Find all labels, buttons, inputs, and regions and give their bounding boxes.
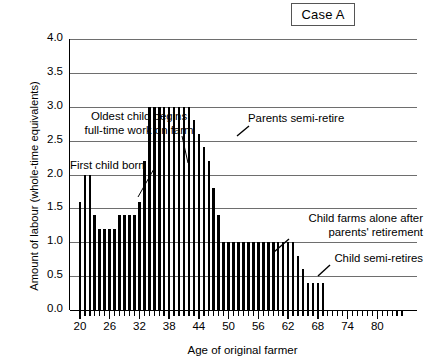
x-tick-label: 62 xyxy=(282,320,295,332)
x-tick xyxy=(248,310,249,316)
bar xyxy=(158,107,161,310)
x-tick-label: 74 xyxy=(341,320,354,332)
bar xyxy=(247,242,250,310)
x-tick xyxy=(297,310,298,316)
x-tick xyxy=(337,310,338,316)
x-tick xyxy=(327,310,328,316)
x-tick xyxy=(312,310,313,316)
x-tick xyxy=(228,310,229,319)
x-tick xyxy=(401,310,402,316)
x-tick xyxy=(258,310,259,319)
x-tick-label: 80 xyxy=(371,320,384,332)
y-axis-title: Amount of labour (whole-time equivalents… xyxy=(28,36,40,336)
x-tick xyxy=(149,310,150,316)
x-axis-tick-labels: 2026323844505662687480 xyxy=(70,320,417,336)
bar xyxy=(208,161,211,310)
x-tick xyxy=(307,310,308,316)
x-tick xyxy=(159,310,160,316)
bar xyxy=(272,242,275,310)
bar xyxy=(163,107,166,310)
x-tick xyxy=(213,310,214,316)
x-tick xyxy=(243,310,244,316)
bar xyxy=(79,202,82,310)
bar xyxy=(262,242,265,310)
x-tick-label: 68 xyxy=(311,320,324,332)
x-tick xyxy=(154,310,155,316)
y-tick-label: 1.0 xyxy=(29,234,63,246)
x-tick xyxy=(104,310,105,316)
x-tick xyxy=(188,310,189,316)
y-tick-label: 0.0 xyxy=(29,302,63,314)
y-tick-label: 1.5 xyxy=(29,200,63,212)
plot-area: 0.00.51.01.52.02.53.03.54.0 202632384450… xyxy=(69,39,416,310)
x-tick xyxy=(253,310,254,316)
x-tick xyxy=(193,310,194,316)
x-tick xyxy=(302,310,303,316)
x-tick xyxy=(367,310,368,316)
case-badge-label: Case A xyxy=(301,7,344,22)
x-tick xyxy=(233,310,234,316)
bar xyxy=(128,215,131,310)
x-tick xyxy=(168,310,169,319)
bar xyxy=(148,107,151,310)
x-tick xyxy=(144,310,145,316)
bar xyxy=(183,107,186,310)
x-tick-label: 50 xyxy=(222,320,235,332)
bar xyxy=(98,229,101,310)
bar xyxy=(178,107,181,310)
x-tick xyxy=(322,310,323,316)
bar xyxy=(153,107,156,310)
x-tick xyxy=(263,310,264,316)
y-tick-label: 0.5 xyxy=(29,268,63,280)
x-tick xyxy=(387,310,388,316)
annotation-oldest-child-line2: full-time work on farm xyxy=(64,124,214,138)
bar xyxy=(143,161,146,310)
case-badge: Case A xyxy=(291,3,355,26)
bar xyxy=(297,256,300,310)
x-tick xyxy=(129,310,130,316)
bar xyxy=(168,107,171,310)
x-tick xyxy=(282,310,283,316)
x-tick-label: 26 xyxy=(103,320,116,332)
x-tick xyxy=(396,310,397,316)
bar xyxy=(133,215,136,310)
bar xyxy=(267,242,270,310)
bar xyxy=(113,229,116,310)
bar xyxy=(227,242,230,310)
x-tick xyxy=(109,310,110,319)
x-tick xyxy=(238,310,239,316)
bar xyxy=(277,242,280,310)
x-tick xyxy=(382,310,383,316)
bar xyxy=(93,215,96,310)
x-tick xyxy=(208,310,209,316)
y-tick-label: 2.5 xyxy=(29,133,63,145)
annotation-first-child: First child born xyxy=(70,159,145,173)
bar xyxy=(212,188,215,310)
x-tick xyxy=(124,310,125,316)
x-tick xyxy=(178,310,179,316)
x-tick-label: 32 xyxy=(133,320,146,332)
x-tick xyxy=(278,310,279,316)
x-tick xyxy=(362,310,363,316)
bar xyxy=(188,107,191,310)
x-tick-label: 56 xyxy=(252,320,265,332)
bar xyxy=(282,242,285,310)
x-tick xyxy=(119,310,120,316)
y-tick-label: 2.0 xyxy=(29,167,63,179)
bar xyxy=(312,283,315,310)
x-tick xyxy=(84,310,85,316)
x-tick xyxy=(317,310,318,319)
x-tick-label: 44 xyxy=(192,320,205,332)
y-tick-label: 3.5 xyxy=(29,65,63,77)
bar xyxy=(287,242,290,310)
bar xyxy=(257,242,260,310)
bar xyxy=(84,175,87,311)
annotation-child-farms-alone: Child farms alone after parents' retirem… xyxy=(265,212,423,239)
x-tick xyxy=(134,310,135,316)
y-tick-label: 4.0 xyxy=(29,31,63,43)
bar xyxy=(217,215,220,310)
x-tick xyxy=(99,310,100,316)
bar xyxy=(173,107,176,310)
x-tick xyxy=(268,310,269,316)
x-tick xyxy=(94,310,95,316)
